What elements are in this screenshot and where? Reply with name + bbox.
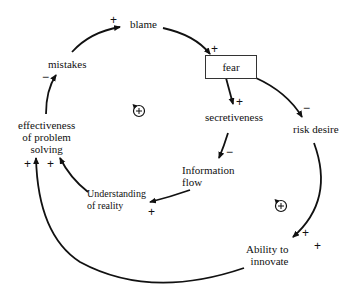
link-risk-ability	[293, 143, 321, 237]
polarity-effectiveness-mistakes: −	[42, 71, 49, 83]
reinforcing-loop-icon-right	[273, 198, 289, 214]
node-understanding-line1: Understanding	[87, 188, 146, 200]
link-understanding-effectiveness	[60, 158, 88, 192]
polarity-fear-risk: −	[303, 102, 310, 114]
node-information-flow-line2: flow	[182, 176, 235, 188]
node-information-flow: Information flow	[182, 164, 235, 188]
polarity-blame-fear: +	[211, 43, 218, 55]
link-mistakes-blame	[72, 27, 120, 52]
link-fear-secretiveness	[226, 78, 233, 104]
node-understanding-line2: of reality	[87, 200, 146, 212]
node-information-flow-line1: Information	[182, 164, 235, 176]
polarity-mistakes-blame: +	[110, 14, 117, 26]
node-blame: blame	[130, 18, 157, 30]
node-risk-desire: risk desire	[293, 123, 339, 135]
link-blame-fear	[163, 28, 210, 54]
polarity-fear-secretiveness: +	[236, 96, 243, 108]
node-effectiveness-line2: of problem	[18, 131, 75, 143]
polarity-ability-effectiveness: +	[24, 158, 31, 170]
node-ability-line1: Ability to	[246, 243, 288, 255]
node-secretiveness: secretiveness	[205, 111, 263, 123]
node-ability-to-innovate: Ability to innovate	[246, 243, 288, 267]
node-secretiveness-label: secretiveness	[205, 111, 263, 123]
node-fear: fear	[205, 55, 257, 79]
node-effectiveness-line1: effectiveness	[18, 119, 75, 131]
node-effectiveness-line3: solving	[18, 143, 75, 155]
node-blame-label: blame	[130, 18, 157, 30]
node-effectiveness-of-problem-solving: effectiveness of problem solving	[18, 119, 75, 155]
node-risk-desire-label: risk desire	[293, 123, 339, 135]
node-mistakes-label: mistakes	[48, 58, 87, 70]
node-ability-line2: innovate	[246, 255, 288, 267]
polarity-risk-ability: +	[302, 227, 309, 239]
node-mistakes: mistakes	[48, 58, 87, 70]
polarity-understanding-effectiveness: +	[47, 158, 54, 170]
reinforcing-loop-icon-left	[131, 103, 147, 119]
polarity-secretiveness-infoflow: −	[226, 146, 233, 158]
polarity-ability-extra: +	[314, 240, 321, 252]
polarity-infoflow-understanding: +	[148, 206, 155, 218]
node-understanding-of-reality: Understanding of reality	[87, 188, 146, 212]
link-infoflow-understanding	[150, 190, 190, 202]
node-fear-label: fear	[222, 61, 239, 73]
